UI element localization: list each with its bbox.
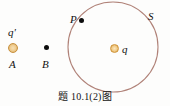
charge-q-prime-label: q' [8,27,16,38]
point-p-marker [79,18,84,23]
physics-figure: q' A B P S q 题 10.1(2)图 [0,0,170,106]
point-b-marker [44,45,49,50]
gaussian-surface-label: S [148,11,154,22]
charge-q-prime-marker [8,43,18,53]
point-b-label: B [42,59,49,70]
point-a-label: A [9,59,16,70]
charge-q-label: q [122,44,128,55]
figure-caption: 题 10.1(2)图 [0,88,170,103]
charge-q-marker [110,44,119,53]
point-p-label: P [70,14,77,25]
